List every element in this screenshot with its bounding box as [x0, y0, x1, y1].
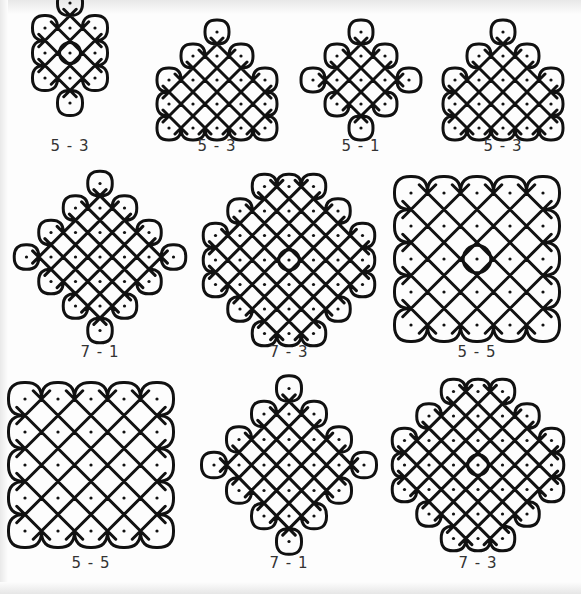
kolam-drawing-icon: [0, 0, 581, 594]
figure-label: 7 - 3: [458, 554, 497, 572]
